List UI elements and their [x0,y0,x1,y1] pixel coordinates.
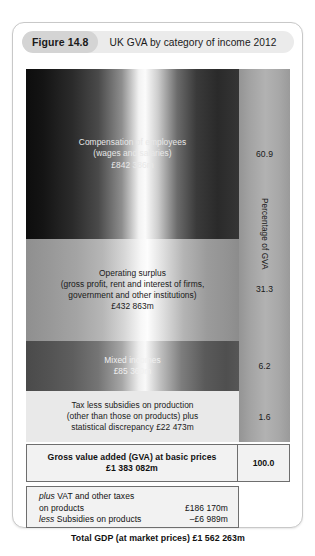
vat-line-2-body: on products [39,503,84,513]
vat-and-subsidies-box: plus VAT and other taxes on products £18… [26,486,239,528]
band-operating-label: Operating surplus (gross profit, rent an… [61,268,205,313]
gva-percent: 100.0 [238,445,289,481]
vat-line-3-body: Subsidies on products [54,514,141,524]
percentage-axis-title: Percentage of GVA [260,198,269,249]
vat-line-2: on products £186 170m [39,503,228,515]
figure-card: Figure 14.8 UK GVA by category of income… [12,22,303,528]
stacked-bar-column: Compensation of employees (wages and sal… [26,69,239,442]
band-mixed-incomes: Mixed incomes £85 360m [26,341,239,391]
band-tax-label: Tax less subsidies on production (other … [67,400,199,434]
vat-line-3: less Subsidies on products –£6 989m [39,514,228,526]
vat-line-1-body: VAT and other taxes [55,491,134,501]
vat-line-1-text: plus VAT and other taxes [39,491,134,503]
vat-line-1: plus VAT and other taxes [39,491,228,503]
band-operating-surplus: Operating surplus (gross profit, rent an… [26,239,239,341]
gross-value-added-row: Gross value added (GVA) at basic prices … [26,444,290,482]
gva-label: Gross value added (GVA) at basic prices … [27,445,238,481]
band-compensation-of-employees: Compensation of employees (wages and sal… [26,69,239,239]
figure-number-badge: Figure 14.8 [22,31,98,53]
vat-line-2-value: £186 170m [185,503,228,515]
total-gdp-line: Total GDP (at market prices) £1 562 263m [26,533,290,543]
percent-value-tax: 1.6 [239,412,290,422]
vat-line-2-text: on products [39,503,84,515]
band-compensation-label: Compensation of employees (wages and sal… [79,137,186,171]
percent-value-mixed: 6.2 [239,361,290,371]
band-tax-less-subsidies: Tax less subsidies on production (other … [26,391,239,442]
figure-header: Figure 14.8 UK GVA by category of income… [22,31,294,53]
percent-value-compensation: 60.9 [239,149,290,159]
percent-value-operating: 31.3 [239,284,290,294]
vat-line-3-text: less Subsidies on products [39,514,141,526]
figure-title: UK GVA by category of income 2012 [98,37,277,48]
chart-area: Compensation of employees (wages and sal… [26,69,290,442]
band-mixed-label: Mixed incomes £85 360m [104,355,161,377]
vat-line-1-prefix: plus [39,491,55,501]
vat-line-3-value: –£6 989m [190,514,228,526]
vat-line-3-prefix: less [39,514,54,524]
percentage-column: 60.9 31.3 6.2 1.6 Percentage of GVA [239,69,290,442]
